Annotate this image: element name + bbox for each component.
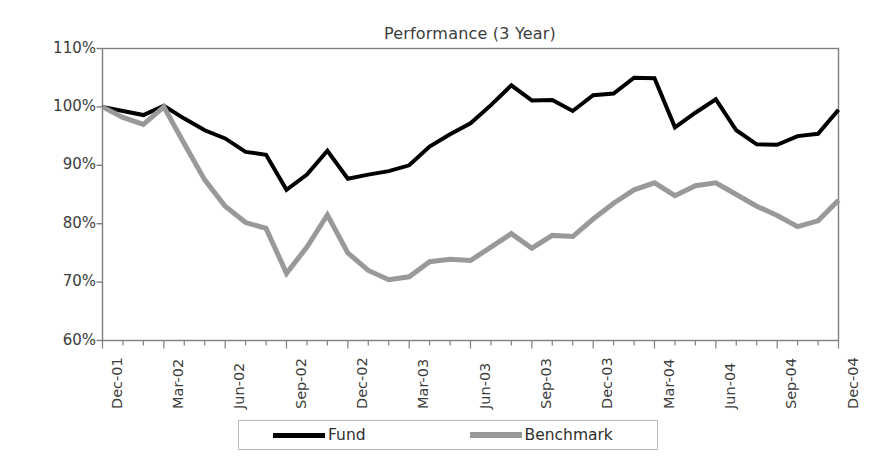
- legend-swatch-fund: [273, 433, 325, 438]
- x-tick-label: Dec-04: [845, 357, 861, 409]
- x-tick-label: Dec-03: [599, 357, 615, 409]
- x-tick-label: Dec-02: [354, 357, 370, 409]
- x-tick-label: Sep-03: [538, 358, 554, 409]
- plot-area: [0, 0, 893, 469]
- x-tick-label: Sep-04: [783, 358, 799, 409]
- x-tick-label: Jun-03: [477, 363, 493, 409]
- x-tick-label: Mar-02: [170, 359, 186, 409]
- legend-swatch-benchmark: [470, 432, 522, 438]
- x-tick-label: Sep-02: [293, 358, 309, 409]
- x-tick-label: Dec-01: [109, 357, 125, 409]
- x-tick-label: Mar-04: [661, 359, 677, 409]
- chart-legend: Fund Benchmark: [238, 420, 658, 450]
- x-tick-label: Jun-02: [231, 363, 247, 409]
- legend-label-benchmark: Benchmark: [525, 426, 613, 444]
- x-tick-label: Mar-03: [415, 359, 431, 409]
- performance-chart: Performance (3 Year) 110%100%90%80%70%60…: [0, 0, 893, 469]
- series-line-fund: [103, 78, 839, 190]
- x-tick-label: Jun-04: [722, 363, 738, 409]
- legend-item-benchmark[interactable]: Benchmark: [470, 421, 613, 449]
- legend-item-fund[interactable]: Fund: [273, 421, 366, 449]
- legend-label-fund: Fund: [328, 426, 366, 444]
- plot-frame: [103, 49, 839, 341]
